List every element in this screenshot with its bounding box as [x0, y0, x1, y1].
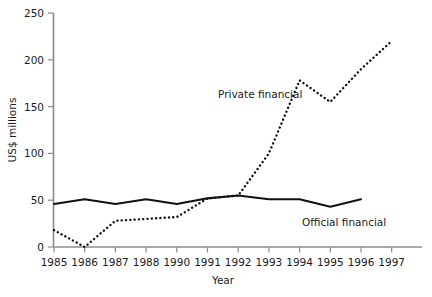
x-tick-label-1996: 1996	[348, 256, 375, 268]
x-axis-title: Year	[211, 274, 235, 286]
series-line-official-financial	[54, 196, 361, 207]
x-tick-label-1993: 1993	[256, 256, 283, 268]
x-tick-label-1991: 1991	[194, 256, 221, 268]
y-tick-label-0: 0	[37, 241, 44, 253]
x-tick-label-1990: 1990	[163, 256, 190, 268]
x-axis-tick-labels: 1985 1986 1987 1988 1990 1991 1992 1993 …	[41, 256, 405, 268]
series-annotation-official-financial: Official financial	[302, 216, 386, 228]
y-tick-label-200: 200	[24, 54, 44, 66]
y-axis-ticks	[48, 13, 54, 247]
x-tick-label-1995: 1995	[317, 256, 344, 268]
y-axis-title: US$ millions	[6, 98, 18, 163]
series-annotation-private-financial: Private financial	[218, 88, 302, 100]
y-tick-label-250: 250	[24, 7, 44, 19]
y-axis-tick-labels: 250 200 150 100 50 0	[24, 7, 44, 253]
x-tick-label-1985: 1985	[41, 256, 68, 268]
line-chart: 250 200 150 100 50 0 1985 1986 1987	[0, 0, 432, 297]
chart-container: 250 200 150 100 50 0 1985 1986 1987	[0, 0, 432, 297]
x-tick-label-1997: 1997	[378, 256, 405, 268]
x-tick-label-1986: 1986	[71, 256, 98, 268]
x-axis-ticks	[54, 247, 392, 253]
x-tick-label-1992: 1992	[225, 256, 252, 268]
x-tick-label-1988: 1988	[133, 256, 160, 268]
x-tick-label-1994: 1994	[286, 256, 313, 268]
x-tick-label-1987: 1987	[102, 256, 129, 268]
y-tick-label-100: 100	[24, 147, 44, 159]
y-tick-label-150: 150	[24, 101, 44, 113]
y-tick-label-50: 50	[31, 194, 44, 206]
